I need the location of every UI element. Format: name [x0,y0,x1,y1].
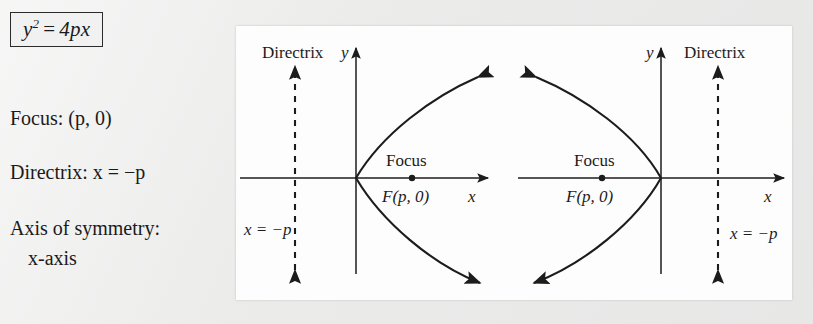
directrix-equation-left-figure: x = −p [243,220,292,239]
y-axis-label-left-figure: y [339,43,349,62]
focus-property: Focus: (p, 0) [10,106,112,130]
focus-coordinates-right-figure: F(p, 0) [565,187,614,206]
focus-label-right-figure: Focus [574,151,615,170]
focus-point-left-figure [409,175,415,181]
focus-label-left-figure: Focus [386,151,427,170]
directrix-property: Directrix: x = −p [10,160,145,184]
focus-point-right-figure [599,175,605,181]
directrix-equation-right-figure: x = −p [729,224,778,243]
figure-parabola-opens-left: Directrix y x Focus F(p, 0) x = −p [518,43,784,283]
axis-of-symmetry-property: Axis of symmetry: [10,216,160,240]
figure-parabola-opens-right: Directrix y x Focus F(p, 0) x = −p [240,43,488,283]
focus-coordinates-left-figure: F(p, 0) [381,187,430,206]
parabola-figure-panel: Directrix y x Focus F(p, 0) x = −p Direc… [236,26,792,300]
equation-lhs-variable: y [23,17,33,41]
x-axis-label-left-figure: x [467,187,476,206]
x-axis-label-right-figure: x [763,187,772,206]
directrix-label-right-figure: Directrix [684,43,746,62]
y-axis-label-right-figure: y [644,43,654,62]
standard-form-equation-box: y2=4px [10,12,103,47]
properties-column: y2=4px Focus: (p, 0) Directrix: x = −p A… [8,8,230,308]
equation-rhs: 4px [59,17,90,41]
equation-equals-sign: = [39,17,59,41]
axis-of-symmetry-value: x-axis [28,246,77,270]
directrix-label-left-figure: Directrix [262,43,324,62]
